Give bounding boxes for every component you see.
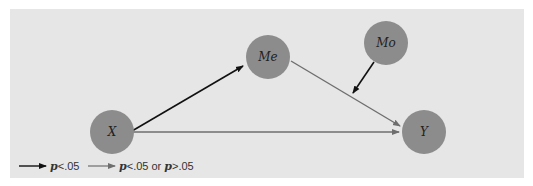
- legend-item-significant: p<.05: [19, 160, 79, 173]
- legend-significant-label: p<.05: [50, 160, 79, 173]
- node-y-label: Y: [420, 125, 429, 139]
- edge-x-to-me: [132, 66, 243, 131]
- node-mo: Mo: [364, 21, 408, 65]
- node-me-label: Me: [257, 50, 277, 64]
- node-y: Y: [402, 110, 446, 154]
- mediation-moderation-diagram: X Me Mo Y p<.05 p<.05 or p>.05: [0, 0, 533, 186]
- node-x: X: [90, 110, 134, 154]
- node-me: Me: [246, 35, 290, 79]
- legend: p<.05 p<.05 or p>.05: [19, 160, 194, 173]
- edge-me-to-y: [291, 61, 400, 126]
- edge-mo-to-path: [353, 62, 374, 93]
- node-mo-label: Mo: [375, 36, 396, 50]
- node-x-label: X: [107, 125, 117, 139]
- legend-mixed-label: p<.05 or p>.05: [119, 160, 194, 173]
- legend-item-mixed: p<.05 or p>.05: [88, 160, 194, 173]
